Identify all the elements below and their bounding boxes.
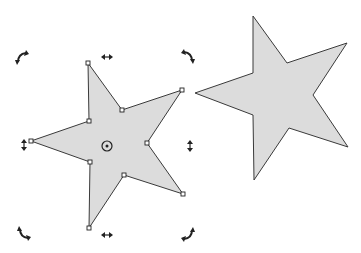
node-handle[interactable] [120, 108, 124, 112]
node-handle[interactable] [181, 192, 185, 196]
node-handle[interactable] [180, 88, 184, 92]
rotate-handle-bottom-left[interactable] [17, 226, 31, 241]
node-handle[interactable] [86, 61, 90, 65]
selected-star[interactable] [29, 61, 185, 230]
node-handle[interactable] [88, 160, 92, 164]
node-handle[interactable] [87, 119, 91, 123]
node-handle[interactable] [145, 141, 149, 145]
rotate-handle-top-left[interactable] [15, 50, 29, 65]
skew-handle-bottom[interactable] [101, 232, 113, 238]
node-handle[interactable] [87, 226, 91, 230]
skew-handle-top[interactable] [101, 54, 113, 60]
skew-handle-left[interactable] [21, 139, 27, 151]
node-handle[interactable] [29, 139, 33, 143]
drawing-canvas[interactable]: Star shapes: selected with rotate handle… [0, 0, 361, 253]
copy-star-shape[interactable] [195, 16, 348, 180]
rotate-handle-bottom-right[interactable] [181, 227, 195, 242]
skew-handle-right[interactable] [187, 140, 193, 152]
node-handle[interactable] [122, 173, 126, 177]
rotate-handle-top-right[interactable] [181, 49, 195, 64]
